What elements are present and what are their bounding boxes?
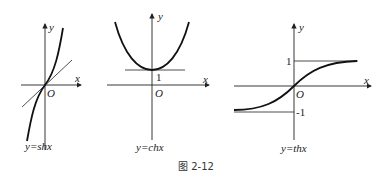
tanh-curve <box>234 61 357 110</box>
panel-cosh: y x 1 O y=chx <box>107 10 209 153</box>
y-axis-label: y <box>298 21 304 33</box>
function-label: y=chx <box>135 141 164 153</box>
panel-tanh: y x 1 -1 O y=thx <box>234 21 371 154</box>
figure-caption: 图 2-12 <box>178 161 214 172</box>
x-axis-label: x <box>202 73 208 85</box>
tick-label-1: 1 <box>286 55 292 67</box>
tick-label-minus-1: -1 <box>296 106 305 118</box>
origin-label: O <box>47 87 55 99</box>
y-axis-label: y <box>48 21 54 33</box>
x-axis-label: x <box>74 72 80 84</box>
function-label: y=thx <box>280 142 307 154</box>
tick-label-1: 1 <box>156 71 162 83</box>
origin-label: O <box>296 88 304 100</box>
origin-label: O <box>155 87 163 99</box>
y-axis-label: y <box>157 10 163 22</box>
hyperbolic-functions-figure: y x O y=shx y x 1 O y=chx y x 1 -1 O y=t… <box>0 0 384 178</box>
panel-sinh: y x O y=shx <box>21 21 81 152</box>
function-label: y=shx <box>24 140 52 152</box>
x-axis-label: x <box>363 74 369 86</box>
